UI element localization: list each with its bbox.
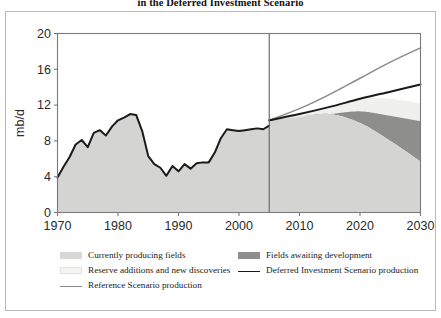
legend-label: Reserve additions and new discoveries [88, 265, 230, 276]
legend-item-deferred-investment-scenario-production: Deferred Investment Scenario production [238, 265, 418, 276]
legend-swatch-currently-producing-fields [60, 252, 82, 259]
legend-swatch-reserve-additions [60, 267, 82, 274]
x-tick-label: 2020 [346, 219, 374, 233]
legend-item-reserve-additions-and-new-discoveries: Reserve additions and new discoveries [60, 265, 238, 276]
legend-row: Reference Scenario production [60, 278, 430, 293]
x-tick-label: 1980 [104, 219, 132, 233]
x-tick-label: 2030 [407, 219, 435, 233]
x-tick-label: 2000 [225, 219, 253, 233]
legend-label: Currently producing fields [88, 250, 185, 261]
legend-label: Deferred Investment Scenario production [266, 265, 418, 276]
legend-swatch-fields-awaiting-development [238, 252, 260, 259]
legend-line-deferred-investment-scenario [238, 271, 260, 272]
x-tick-label: 2010 [286, 219, 314, 233]
area-historical-production [58, 114, 270, 212]
legend-item-fields-awaiting-development: Fields awaiting development [238, 250, 372, 261]
y-axis-title: mb/d [13, 109, 27, 137]
y-tick-label: 8 [44, 134, 51, 148]
legend-line-reference-scenario [60, 286, 82, 287]
legend-row: Currently producing fields Fields awaiti… [60, 248, 430, 263]
legend-row: Reserve additions and new discoveries De… [60, 263, 430, 278]
legend-item-currently-producing-fields: Currently producing fields [60, 250, 238, 261]
legend-label: Reference Scenario production [88, 280, 202, 291]
y-tick-label: 12 [37, 98, 51, 112]
chart-legend: Currently producing fields Fields awaiti… [60, 248, 430, 293]
x-tick-label: 1970 [44, 219, 72, 233]
y-tick-label: 4 [44, 170, 51, 184]
x-tick-label: 1990 [165, 219, 193, 233]
legend-item-reference-scenario-production: Reference Scenario production [60, 280, 238, 291]
figure-container: in the Deferred Investment Scenario 0481… [0, 0, 441, 318]
legend-label: Fields awaiting development [266, 250, 372, 261]
y-tick-label: 16 [37, 63, 51, 77]
y-tick-label: 20 [37, 27, 51, 41]
